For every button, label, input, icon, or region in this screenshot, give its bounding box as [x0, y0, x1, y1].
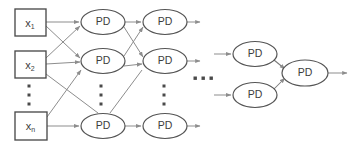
edges-layer2-out: [187, 22, 200, 126]
input-node-x2[interactable]: x2: [15, 51, 46, 78]
pd-node-l1-n3[interactable]: PD: [81, 114, 125, 139]
pd-node-l1-n1[interactable]: PD: [81, 10, 125, 35]
pd-node-l3-n1[interactable]: PD: [233, 42, 277, 67]
edge-x2-l1n2: [46, 62, 80, 64]
pd-node-l3-n2[interactable]: PD: [233, 83, 277, 108]
diagram-canvas: x1 x2 xn PD PD PD: [0, 0, 356, 149]
pd-label-l1-n3: PD: [96, 119, 111, 131]
pd-label-l2-n2: PD: [158, 54, 173, 66]
pd-label-l3-n1: PD: [248, 47, 263, 59]
edges-into-layer3: [214, 54, 231, 95]
vertical-ellipsis-inputs: [28, 85, 31, 106]
pd-node-l1-n2[interactable]: PD: [81, 49, 125, 74]
edge-xn-l1n2: [47, 70, 81, 117]
pd-node-l2-n2[interactable]: PD: [143, 49, 187, 74]
pd-node-l2-n3[interactable]: PD: [143, 114, 187, 139]
pd-label-l2-n1: PD: [158, 15, 173, 27]
input-node-x1[interactable]: x1: [15, 9, 46, 36]
horizontal-ellipsis-layers: [194, 77, 213, 80]
pd-label-l1-n1: PD: [96, 15, 111, 27]
pd-node-output[interactable]: PD: [282, 60, 328, 86]
edge-l1n2-l2n2: [124, 64, 142, 66]
edge-l3n2-out: [274, 78, 285, 89]
pd-label-l1-n2: PD: [96, 54, 111, 66]
pd-label-output: PD: [298, 66, 313, 78]
vertical-ellipsis-layer1: [100, 85, 103, 106]
edges-input-to-layer1: [46, 22, 98, 126]
pd-label-l3-n2: PD: [248, 88, 263, 100]
edges-layer1-to-layer2: [110, 22, 143, 126]
pd-node-l2-n1[interactable]: PD: [143, 10, 187, 35]
edge-l1n3-l2n2: [110, 70, 142, 113]
network-diagram: x1 x2 xn PD PD PD: [0, 0, 356, 149]
input-node-xn[interactable]: xn: [15, 112, 47, 140]
pd-label-l2-n3: PD: [158, 119, 173, 131]
vertical-ellipsis-layer2: [163, 85, 166, 106]
